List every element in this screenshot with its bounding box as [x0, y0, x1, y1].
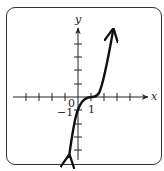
y-axis: y [74, 13, 82, 160]
x-axis: x [13, 90, 158, 103]
x-tick-label-1: 1 [88, 103, 95, 116]
x-axis-label: x [151, 90, 158, 103]
function-graph: x y 0 1 −1 [0, 0, 164, 171]
y-axis-label: y [74, 13, 82, 26]
y-tick-label-minus-1: −1 [57, 106, 73, 119]
